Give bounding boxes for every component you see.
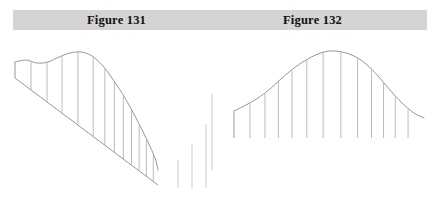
- page-canvas: Figure 131 Figure 132: [0, 0, 444, 210]
- figures-drawing: [0, 0, 444, 210]
- figure-132-diagram: [234, 51, 424, 138]
- figure-131-diagram: [15, 52, 158, 185]
- detached-ordinates-group: [178, 94, 212, 188]
- figure-131-curve: [15, 52, 158, 170]
- figure-131-baseline: [15, 78, 158, 185]
